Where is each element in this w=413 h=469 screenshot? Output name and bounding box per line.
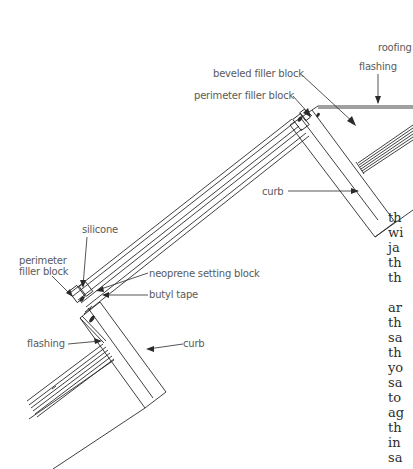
perimeter-filler-block-bottom-label: perimeter filler block [19, 255, 68, 277]
text-line: th [388, 420, 404, 435]
text-line: ja [388, 240, 404, 255]
bottom-curb [53, 302, 166, 469]
leader-lines [52, 74, 378, 349]
top-roofing-layers [356, 125, 413, 174]
skylight-section-drawing [0, 0, 413, 469]
silicone-label: silicone [82, 224, 118, 235]
text-line: th [388, 210, 404, 225]
top-flashing [312, 106, 413, 110]
perimeter-label-line1: perimeter [19, 255, 68, 266]
curb-top-label: curb [262, 186, 284, 197]
text-line: yo [388, 360, 404, 375]
text-line: sa [388, 375, 404, 390]
glazing-panels [70, 119, 309, 310]
roofing-label: roofing [378, 42, 412, 53]
flashing-bottom-label: flashing [27, 338, 65, 349]
screws [79, 112, 321, 323]
text-line: sa [388, 330, 404, 345]
bottom-roofing-layers [27, 344, 114, 419]
perimeter-filler-block-top-label: perimeter filler block [194, 90, 294, 101]
curb-bottom-label: curb [183, 338, 205, 349]
text-line: to [388, 390, 404, 405]
text-line: wi [388, 225, 404, 240]
beveled-filler-block-label: beveled filler block [213, 68, 304, 79]
text-line: ag [388, 405, 404, 420]
text-line: ar [388, 300, 404, 315]
perimeter-label-line2: filler block [19, 266, 68, 277]
text-line: th [388, 270, 404, 285]
butyl-tape-label: butyl tape [149, 289, 198, 300]
text-line: th [388, 255, 404, 270]
cropped-body-text: th wi ja th th ar th sa th yo sa to ag t… [388, 210, 404, 465]
paragraph-gap [388, 285, 404, 300]
neoprene-setting-block-label: neoprene setting block [149, 268, 260, 279]
text-line: sa [388, 450, 404, 465]
text-line: in [388, 435, 404, 450]
text-line: th [388, 315, 404, 330]
text-line: th [388, 345, 404, 360]
flashing-top-label: flashing [359, 61, 397, 72]
